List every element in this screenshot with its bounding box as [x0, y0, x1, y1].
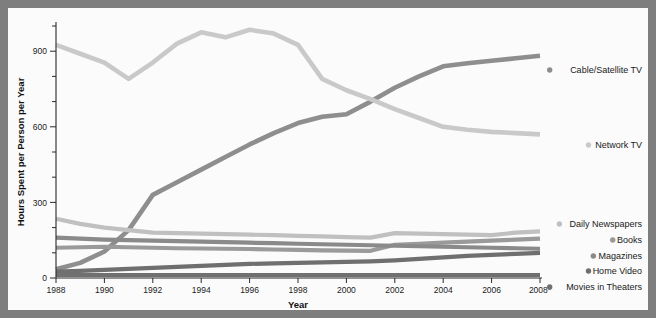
- legend-marker-movies-in-theaters: [547, 284, 552, 289]
- legend-label-movies-in-theaters: Movies in Theaters: [566, 282, 642, 292]
- legend-label-books: Books: [617, 235, 643, 245]
- x-tick-label: 2006: [482, 285, 501, 295]
- x-tick-label: 1998: [289, 285, 308, 295]
- y-tick-label: 900: [33, 46, 47, 56]
- y-tick-label: 600: [33, 122, 47, 132]
- x-axis-title: Year: [288, 299, 308, 310]
- legend-marker-daily-newspapers: [557, 221, 562, 226]
- legend-label-home-video: Home Video: [593, 266, 642, 276]
- series-line-home-video: [56, 253, 540, 272]
- legend-label-cable-satellite-tv: Cable/Satellite TV: [570, 65, 642, 75]
- x-tick-label: 1988: [47, 285, 66, 295]
- series-line-network-tv: [56, 30, 540, 135]
- x-tick-label: 2004: [434, 285, 453, 295]
- legend-marker-books: [610, 237, 615, 242]
- legend-label-magazines: Magazines: [598, 251, 642, 261]
- series-line-daily-newspapers: [56, 219, 540, 238]
- legend-label-daily-newspapers: Daily Newspapers: [569, 219, 642, 229]
- legend-marker-home-video: [586, 268, 591, 273]
- legend-marker-magazines: [591, 253, 596, 258]
- x-tick-label: 2000: [337, 285, 356, 295]
- legend-label-network-tv: Network TV: [595, 140, 642, 150]
- chart-figure: 0300600900198819901992199419961998200020…: [0, 0, 656, 318]
- x-tick-label: 1990: [95, 285, 114, 295]
- y-tick-label: 0: [42, 273, 47, 283]
- line-chart: 0300600900198819901992199419961998200020…: [8, 8, 648, 310]
- x-tick-label: 1992: [143, 285, 162, 295]
- x-tick-label: 2002: [385, 285, 404, 295]
- y-axis-title: Hours Spent per Person per Year: [15, 77, 26, 226]
- x-tick-label: 1994: [192, 285, 211, 295]
- plot-card: 0300600900198819901992199419961998200020…: [8, 8, 648, 310]
- legend-marker-network-tv: [586, 142, 591, 147]
- y-tick-label: 300: [33, 198, 47, 208]
- legend-marker-cable-satellite-tv: [547, 67, 552, 72]
- x-tick-label: 1996: [240, 285, 259, 295]
